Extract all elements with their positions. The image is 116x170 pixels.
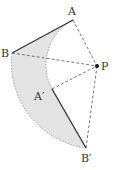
label-P: P	[101, 60, 109, 73]
rotation-diagram: A B P A′ B′	[0, 0, 116, 170]
dashed-line-AP	[73, 20, 97, 66]
label-B-prime: B′	[81, 152, 92, 165]
point-P	[95, 64, 99, 68]
label-A: A	[67, 5, 77, 18]
label-B: B	[1, 47, 9, 60]
dashed-line-A2P	[52, 66, 97, 89]
label-A-prime: A′	[33, 90, 45, 103]
dashed-line-B2P	[86, 66, 97, 148]
